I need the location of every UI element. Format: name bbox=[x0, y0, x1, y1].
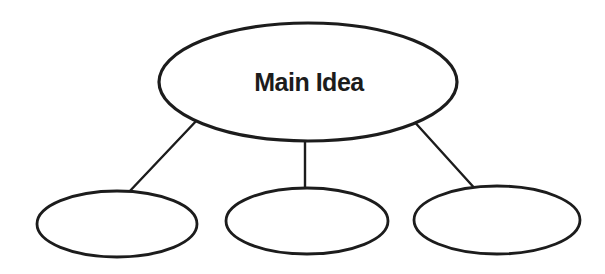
child-ellipse-middle bbox=[226, 188, 388, 254]
concept-map-canvas: Main Idea bbox=[0, 0, 605, 274]
main-idea-label: Main Idea bbox=[254, 68, 365, 96]
connector-line-right bbox=[411, 118, 478, 192]
child-ellipse-left bbox=[37, 191, 197, 257]
child-ellipse-right bbox=[414, 186, 580, 254]
concept-map-diagram: Main Idea bbox=[0, 0, 605, 274]
connector-line-left bbox=[128, 118, 199, 193]
